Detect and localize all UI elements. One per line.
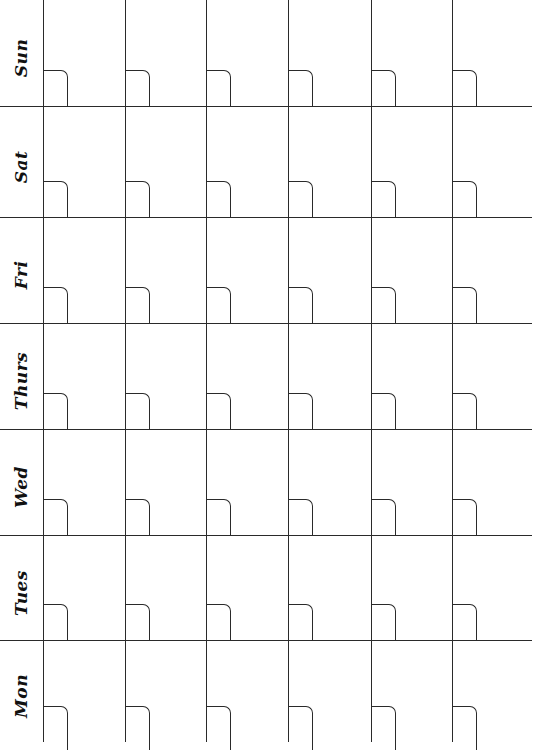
date-number-box[interactable] bbox=[372, 287, 396, 323]
date-number-box[interactable] bbox=[453, 706, 477, 750]
date-number-box[interactable] bbox=[126, 287, 150, 323]
date-number-box[interactable] bbox=[44, 181, 68, 217]
date-number-box[interactable] bbox=[126, 70, 150, 106]
date-number-box[interactable] bbox=[289, 499, 313, 535]
date-number-box[interactable] bbox=[126, 706, 150, 750]
date-number-box[interactable] bbox=[44, 706, 68, 750]
date-number-box[interactable] bbox=[207, 287, 231, 323]
date-number-box[interactable] bbox=[453, 287, 477, 323]
date-number-box[interactable] bbox=[372, 499, 396, 535]
date-number-box[interactable] bbox=[289, 393, 313, 429]
date-number-box[interactable] bbox=[453, 604, 477, 640]
date-number-box[interactable] bbox=[453, 393, 477, 429]
date-number-box[interactable] bbox=[126, 604, 150, 640]
date-number-box[interactable] bbox=[207, 393, 231, 429]
date-number-box[interactable] bbox=[372, 393, 396, 429]
date-number-box[interactable] bbox=[289, 181, 313, 217]
date-number-box[interactable] bbox=[372, 181, 396, 217]
date-number-box[interactable] bbox=[453, 499, 477, 535]
date-number-box[interactable] bbox=[207, 70, 231, 106]
date-number-box[interactable] bbox=[207, 706, 231, 750]
date-number-box[interactable] bbox=[372, 706, 396, 750]
date-number-box[interactable] bbox=[207, 499, 231, 535]
day-label-text: Thurs bbox=[11, 352, 31, 410]
day-label-text: Sat bbox=[11, 150, 31, 183]
date-number-box[interactable] bbox=[44, 287, 68, 323]
day-label-text: Wed bbox=[11, 466, 31, 508]
date-number-box[interactable] bbox=[126, 499, 150, 535]
day-label-text: Fri bbox=[11, 261, 31, 290]
date-number-box[interactable] bbox=[44, 393, 68, 429]
date-number-box[interactable] bbox=[44, 499, 68, 535]
date-number-box[interactable] bbox=[289, 287, 313, 323]
date-number-box[interactable] bbox=[372, 604, 396, 640]
day-label: Sat bbox=[0, 126, 42, 207]
date-number-box[interactable] bbox=[126, 393, 150, 429]
date-number-box[interactable] bbox=[289, 706, 313, 750]
date-number-box[interactable] bbox=[372, 70, 396, 106]
day-label: Wed bbox=[0, 449, 42, 525]
date-number-box[interactable] bbox=[289, 70, 313, 106]
date-number-box[interactable] bbox=[289, 604, 313, 640]
day-label-text: Mon bbox=[11, 674, 31, 718]
date-number-box[interactable] bbox=[207, 604, 231, 640]
day-label-text: Tues bbox=[11, 570, 31, 616]
day-label: Sun bbox=[0, 20, 42, 96]
date-number-box[interactable] bbox=[207, 181, 231, 217]
date-number-box[interactable] bbox=[44, 604, 68, 640]
day-label: Mon bbox=[0, 660, 42, 732]
day-label: Tues bbox=[0, 555, 42, 630]
date-number-box[interactable] bbox=[453, 70, 477, 106]
date-number-box[interactable] bbox=[126, 181, 150, 217]
day-label-text: Sun bbox=[11, 39, 31, 78]
date-number-box[interactable] bbox=[44, 70, 68, 106]
date-number-box[interactable] bbox=[453, 181, 477, 217]
day-label: Fri bbox=[0, 237, 42, 313]
day-label: Thurs bbox=[0, 343, 42, 419]
